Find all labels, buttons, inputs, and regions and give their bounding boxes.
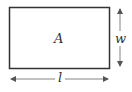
rectangle-diagram: A w l: [0, 0, 132, 92]
length-label: l: [55, 71, 65, 84]
width-label: w: [115, 31, 126, 46]
area-label: A: [54, 32, 63, 45]
diagram-canvas: [0, 0, 132, 92]
